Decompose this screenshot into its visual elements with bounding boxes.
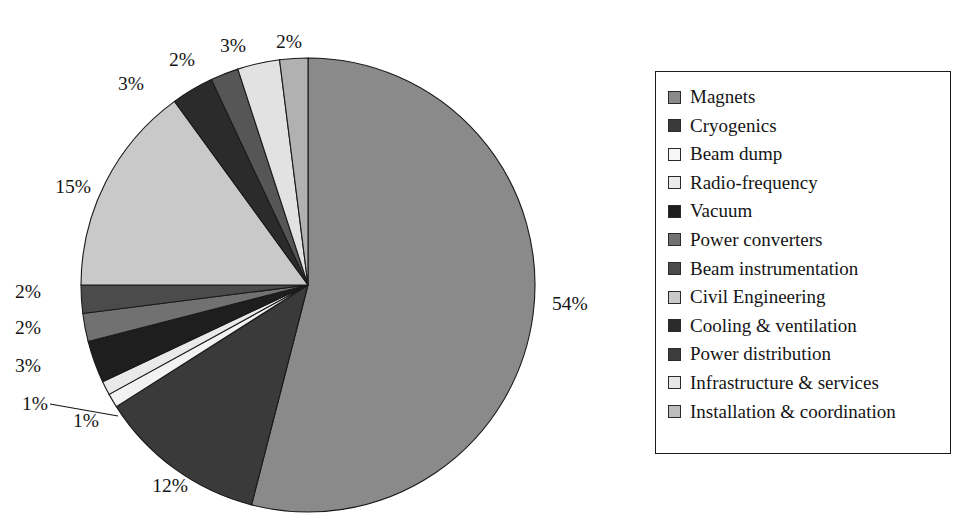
slice-percent-label: 1% [73,410,99,431]
slice-percent-label: 15% [55,176,91,197]
slice-percent-label: 1% [22,393,48,414]
legend-item-label: Cooling & ventilation [690,316,857,336]
slice-percent-label: 12% [152,475,188,496]
legend-item-label: Power distribution [690,344,831,364]
legend-item[interactable]: Civil Engineering [668,286,940,308]
legend-item[interactable]: Radio-frequency [668,172,940,194]
legend-swatch-icon [668,376,681,389]
legend-swatch-icon [668,119,681,132]
legend-item[interactable]: Vacuum [668,200,940,222]
legend-item[interactable]: Infrastructure & services [668,372,940,394]
legend-swatch-icon [668,176,681,189]
legend-item-label: Magnets [690,87,755,107]
legend-box: MagnetsCryogenicsBeam dumpRadio-frequenc… [655,71,951,454]
legend-item[interactable]: Installation & coordination [668,401,940,423]
legend-item[interactable]: Beam instrumentation [668,258,940,280]
slice-percent-label: 3% [15,355,41,376]
legend-swatch-icon [668,91,681,104]
legend-item-label: Infrastructure & services [690,373,879,393]
legend-item-label: Civil Engineering [690,287,826,307]
legend-swatch-icon [668,233,681,246]
legend-item[interactable]: Magnets [668,86,940,108]
slice-percent-label: 2% [276,31,302,52]
legend-item-label: Installation & coordination [690,402,896,422]
legend-swatch-icon [668,291,681,304]
legend-swatch-icon [668,319,681,332]
legend-item-label: Vacuum [690,201,752,221]
legend-item-label: Cryogenics [690,116,777,136]
legend-swatch-icon [668,205,681,218]
pie-chart: 54%12%1%1%3%2%2%15%3%2%3%2% [0,0,640,529]
legend-item-label: Power converters [690,230,822,250]
pie-slices [81,58,535,512]
legend-swatch-icon [668,148,681,161]
legend-swatch-icon [668,405,681,418]
slice-percent-label: 2% [15,281,41,302]
legend-item-label: Radio-frequency [690,173,818,193]
slice-percent-label: 2% [15,317,41,338]
slice-percent-label: 2% [169,49,195,70]
legend-list: MagnetsCryogenicsBeam dumpRadio-frequenc… [668,86,940,423]
legend-item[interactable]: Cooling & ventilation [668,315,940,337]
slice-percent-label: 54% [552,293,588,314]
legend-item[interactable]: Power distribution [668,343,940,365]
legend-swatch-icon [668,348,681,361]
slice-percent-label: 3% [220,35,246,56]
legend-item[interactable]: Cryogenics [668,115,940,137]
legend-item[interactable]: Beam dump [668,143,940,165]
legend-item-label: Beam dump [690,144,782,164]
legend-item-label: Beam instrumentation [690,259,858,279]
slice-percent-label: 3% [118,73,144,94]
legend-item[interactable]: Power converters [668,229,940,251]
pie-chart-figure: 54%12%1%1%3%2%2%15%3%2%3%2% MagnetsCryog… [0,0,975,529]
legend-swatch-icon [668,262,681,275]
